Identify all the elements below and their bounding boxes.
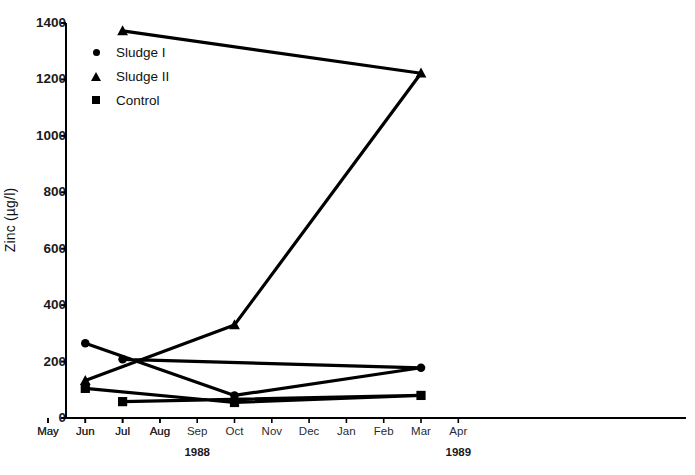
x-tick-label: Jan [337,425,356,437]
series-sludge-i [81,339,425,400]
x-tick-label: Dec [299,425,319,437]
x-tick-label: Apr [449,425,467,437]
data-point-square [230,398,239,407]
data-point-circle [81,339,90,348]
series-layer [80,25,427,407]
data-point-circle [417,363,426,372]
x-tick-label: Jul [115,425,130,437]
x-tick-label: Aug [150,425,170,437]
x-axis-year-label: 1988 [184,446,210,458]
plot-area [0,0,695,475]
x-tick-label: May [37,425,59,437]
x-tick-label: Nov [262,425,282,437]
x-tick-label: Sep [187,425,207,437]
series-line-0 [85,343,421,395]
data-point-square [416,391,425,400]
series-line-2 [85,388,421,402]
x-tick-label: Oct [226,425,244,437]
chart-figure: Zinc (µg/l) 0200400600800100012001400 Sl… [0,0,695,475]
x-axis-year-label: 1989 [446,446,472,458]
data-point-circle [118,355,127,364]
x-tick-label: Feb [374,425,394,437]
series-line-1 [85,31,421,381]
data-point-square [118,397,127,406]
series-sludge-ii [80,25,427,385]
x-tick-label: Jun [76,425,95,437]
x-tick-label: Mar [411,425,431,437]
data-point-square [81,384,90,393]
series-control [81,384,426,407]
